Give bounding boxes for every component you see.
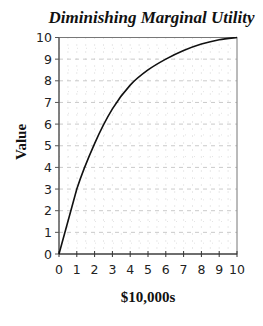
axes [55, 38, 237, 258]
y-tick-label: 5 [44, 138, 52, 153]
y-tick-label: 4 [44, 160, 52, 175]
y-tick-label: 10 [36, 30, 52, 45]
x-tick-label: 0 [55, 262, 63, 277]
x-tick-label: 6 [162, 262, 170, 277]
tick-labels: 012345678910012345678910 [36, 30, 245, 277]
y-tick-label: 1 [44, 225, 52, 240]
x-tick-label: 1 [73, 262, 81, 277]
x-tick-label: 2 [91, 262, 99, 277]
y-tick-label: 2 [44, 203, 52, 218]
y-tick-label: 6 [44, 117, 52, 132]
y-tick-label: 9 [44, 52, 52, 67]
x-tick-label: 10 [229, 262, 245, 277]
y-tick-label: 3 [44, 182, 52, 197]
chart: Diminishing Marginal Utility Value $10,0… [0, 0, 263, 326]
y-tick-label: 0 [44, 247, 52, 262]
plot-area: 012345678910012345678910 [0, 0, 263, 326]
y-tick-label: 8 [44, 73, 52, 88]
x-tick-label: 5 [144, 262, 152, 277]
y-tick-label: 7 [44, 95, 52, 110]
x-tick-label: 9 [215, 262, 223, 277]
x-tick-label: 8 [197, 262, 205, 277]
x-tick-label: 3 [108, 262, 116, 277]
x-tick-label: 7 [180, 262, 188, 277]
x-tick-label: 4 [126, 262, 134, 277]
